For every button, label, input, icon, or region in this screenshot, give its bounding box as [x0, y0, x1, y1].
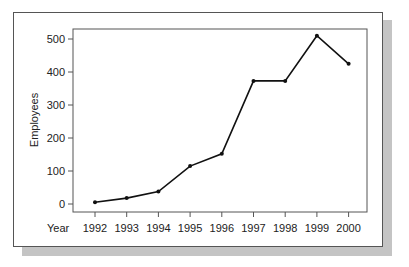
x-tick-label: 2000 — [336, 222, 360, 234]
data-point — [347, 62, 351, 66]
y-axis-label: Employees — [28, 92, 40, 147]
line-chart: 0100200300400500 19921993199419951996199… — [0, 0, 409, 267]
x-tick-label: 1994 — [146, 222, 170, 234]
data-point — [125, 196, 129, 200]
x-tick-label: 1997 — [241, 222, 265, 234]
y-tick-label: 100 — [47, 165, 65, 177]
y-tick-label: 500 — [47, 33, 65, 45]
plot-area — [73, 29, 367, 212]
data-point — [220, 152, 224, 156]
x-tick-label: 1993 — [114, 222, 138, 234]
data-point — [252, 79, 256, 83]
x-axis-label: Year — [47, 222, 70, 234]
data-point — [93, 200, 97, 204]
x-tick-label: 1995 — [178, 222, 202, 234]
y-tick-label: 400 — [47, 66, 65, 78]
series-line-employees — [95, 36, 349, 203]
x-tick-label: 1998 — [273, 222, 297, 234]
y-tick-label: 0 — [59, 198, 65, 210]
x-tick-label: 1999 — [305, 222, 329, 234]
x-tick-label: 1996 — [210, 222, 234, 234]
data-point — [188, 164, 192, 168]
data-point — [315, 34, 319, 38]
data-point — [283, 79, 287, 83]
data-point — [156, 189, 160, 193]
x-tick-label: 1992 — [83, 222, 107, 234]
y-tick-label: 200 — [47, 132, 65, 144]
y-tick-label: 300 — [47, 99, 65, 111]
